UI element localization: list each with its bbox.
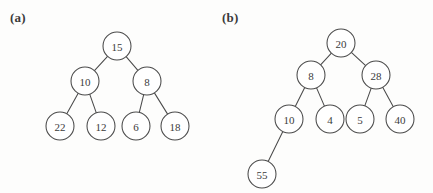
tree-node: 15 (103, 32, 131, 60)
node-value-label: 28 (371, 70, 383, 82)
binary-tree-diagram: 1510822126182082810454055 (0, 0, 433, 193)
tree-node: 12 (87, 112, 115, 140)
node-value-label: 6 (133, 121, 139, 133)
tree-edge (317, 88, 325, 106)
node-value-label: 20 (336, 38, 348, 50)
tree-edge (351, 52, 365, 65)
tree-edge (154, 93, 167, 114)
node-value-label: 40 (395, 114, 407, 126)
tree-node: 18 (161, 112, 189, 140)
figure-root: (a) (b) 1510822126182082810454055 (0, 0, 433, 193)
node-value-label: 18 (170, 121, 182, 133)
tree-nodes-a: 151082212618 (46, 32, 189, 140)
tree-node: 10 (71, 67, 99, 95)
tree-node: 5 (346, 105, 374, 133)
tree-edge (268, 132, 283, 162)
tree-node: 28 (362, 61, 390, 89)
node-value-label: 55 (257, 169, 269, 181)
tree-node: 8 (133, 67, 161, 95)
node-value-label: 10 (284, 114, 296, 126)
tree-node: 4 (316, 105, 344, 133)
node-value-label: 8 (144, 76, 150, 88)
tree-edge (295, 88, 304, 107)
tree-node: 8 (297, 61, 325, 89)
tree-node: 40 (386, 105, 414, 133)
node-value-label: 8 (308, 70, 314, 82)
node-value-label: 12 (96, 121, 107, 133)
node-value-label: 10 (80, 76, 92, 88)
tree-edge (67, 93, 78, 114)
tree-nodes-b: 2082810454055 (248, 29, 414, 188)
tree-edge (139, 95, 143, 113)
tree-node: 55 (248, 160, 276, 188)
tree-edge (94, 56, 107, 70)
node-value-label: 4 (327, 114, 333, 126)
tree-edge (383, 87, 394, 106)
tree-node: 22 (46, 112, 74, 140)
tree-node: 20 (327, 29, 355, 57)
tree-edge (90, 94, 97, 113)
node-value-label: 5 (357, 114, 363, 126)
tree-edge (365, 88, 371, 106)
tree-node: 10 (275, 105, 303, 133)
tree-node: 6 (122, 112, 150, 140)
node-value-label: 15 (112, 41, 124, 53)
tree-edge (321, 53, 332, 65)
node-value-label: 22 (55, 121, 66, 133)
tree-edge (126, 57, 138, 71)
